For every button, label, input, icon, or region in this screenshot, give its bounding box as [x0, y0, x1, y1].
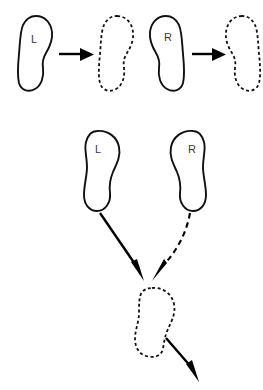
left-converge-arrow: [100, 213, 144, 281]
right-foot-source-outline: [150, 16, 184, 91]
bottom-right-foot-label: R: [188, 143, 196, 155]
right-converge-arrow-shaft: [161, 213, 190, 268]
right-foot-target: [226, 16, 260, 91]
bottom-merged-foot: [135, 288, 174, 357]
left-foot-source-outline: [18, 16, 52, 91]
left-converge-arrow-head: [131, 259, 144, 281]
right-transition-arrow-head: [212, 48, 226, 61]
bottom-left-foot-label: L: [95, 143, 101, 155]
left-converge-arrow-shaft: [100, 213, 137, 267]
footprint-transition-diagram: L R L R: [0, 0, 263, 390]
exit-arrow-head: [186, 360, 199, 382]
bottom-left-foot: L: [84, 131, 119, 211]
bottom-merged-foot-outline: [135, 288, 174, 357]
left-foot-source: L: [18, 16, 52, 91]
right-foot-source: R: [150, 16, 184, 91]
left-transition-arrow: [59, 48, 94, 61]
bottom-right-foot: R: [171, 131, 206, 211]
left-foot-target: [99, 16, 133, 91]
right-foot-source-label: R: [164, 31, 172, 43]
right-foot-target-outline: [226, 16, 260, 91]
left-foot-source-label: L: [31, 33, 37, 45]
left-foot-target-outline: [99, 16, 133, 91]
left-transition-arrow-head: [80, 48, 94, 61]
right-converge-arrow-head: [152, 259, 167, 281]
right-transition-arrow: [192, 48, 226, 61]
right-converge-arrow: [152, 213, 190, 281]
bottom-left-foot-outline: [84, 131, 119, 211]
exit-arrow: [166, 338, 199, 382]
